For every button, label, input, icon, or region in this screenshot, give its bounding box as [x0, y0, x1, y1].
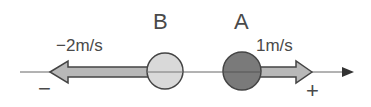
velocity-arrow-a-icon [260, 61, 312, 83]
label-b: B [153, 11, 168, 33]
ball-b [147, 53, 183, 89]
velocity-label-a: 1m/s [256, 37, 293, 54]
velocity-arrow-b-icon [50, 61, 148, 83]
axis-arrowhead-icon [342, 67, 354, 77]
velocity-label-b: −2m/s [56, 37, 103, 54]
negative-direction-sign: − [38, 78, 51, 100]
positive-direction-sign: + [306, 80, 319, 102]
ball-a [223, 52, 261, 90]
label-a: A [234, 11, 249, 33]
